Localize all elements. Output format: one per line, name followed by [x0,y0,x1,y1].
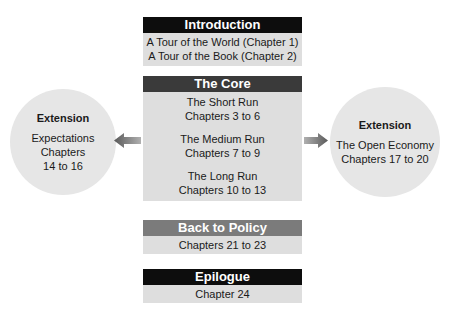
extension-left-line: Expectations [32,131,95,145]
core-group-short-run: The Short Run Chapters 3 to 6 [143,95,302,123]
group-chapters: Chapters 3 to 6 [143,109,302,123]
group-chapters: Chapters 10 to 13 [143,183,302,197]
group-chapters: Chapters 7 to 9 [143,146,302,160]
policy-box: Back to Policy Chapters 21 to 23 [143,220,302,254]
extension-right-circle: Extension The Open Economy Chapters 17 t… [330,87,440,197]
extension-right-line: The Open Economy [336,138,434,152]
group-name: The Short Run [143,95,302,109]
extension-left-title: Extension [37,111,90,125]
policy-header: Back to Policy [143,220,302,236]
epilogue-header: Epilogue [143,269,302,285]
core-group-long-run: The Long Run Chapters 10 to 13 [143,169,302,197]
introduction-line: A Tour of the World (Chapter 1) [143,35,302,49]
core-group-medium-run: The Medium Run Chapters 7 to 9 [143,132,302,160]
arrow-left-icon [114,133,141,148]
introduction-header: Introduction [143,17,302,33]
epilogue-body: Chapter 24 [143,285,302,303]
extension-right-title: Extension [359,118,412,132]
core-body: The Short Run Chapters 3 to 6 The Medium… [143,92,302,201]
policy-body: Chapters 21 to 23 [143,236,302,254]
introduction-box: Introduction A Tour of the World (Chapte… [143,17,302,66]
core-box: The Core The Short Run Chapters 3 to 6 T… [143,76,302,201]
group-name: The Medium Run [143,132,302,146]
introduction-line: A Tour of the Book (Chapter 2) [143,49,302,63]
group-name: The Long Run [143,169,302,183]
extension-left-line: Chapters [41,145,86,159]
arrow-right-icon [304,133,328,148]
extension-right-line: Chapters 17 to 20 [341,152,428,166]
introduction-body: A Tour of the World (Chapter 1) A Tour o… [143,33,302,66]
extension-left-circle: Extension Expectations Chapters 14 to 16 [10,89,116,195]
epilogue-box: Epilogue Chapter 24 [143,269,302,303]
extension-left-line: 14 to 16 [43,159,83,173]
core-header: The Core [143,76,302,92]
